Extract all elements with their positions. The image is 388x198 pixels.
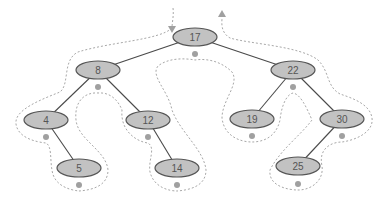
node-label: 12: [142, 115, 154, 126]
end-arrow-up-icon: [218, 10, 226, 17]
visit-dot-8: [95, 84, 101, 90]
tree-nodes: 17 8 22 4 12 19 30 5: [24, 28, 364, 177]
visit-dot-25: [295, 181, 301, 187]
tree-node-22: 22: [271, 61, 315, 79]
tree-node-19: 19: [230, 110, 274, 128]
visit-dot-19: [249, 133, 255, 139]
node-label: 4: [43, 115, 49, 126]
visit-dot-4: [43, 134, 49, 140]
tree-node-25: 25: [276, 157, 320, 175]
node-label: 8: [95, 65, 101, 76]
node-label: 25: [292, 161, 304, 172]
node-label: 30: [336, 114, 348, 125]
node-label: 17: [189, 32, 201, 43]
tree-node-8: 8: [76, 61, 120, 79]
node-label: 19: [246, 114, 258, 125]
node-label: 5: [76, 163, 82, 174]
node-label: 14: [171, 163, 183, 174]
tree-node-30: 30: [320, 110, 364, 128]
tree-node-12: 12: [126, 111, 170, 129]
inorder-traversal-diagram: 17 8 22 4 12 19 30 5: [0, 0, 388, 198]
tree-node-5: 5: [57, 159, 101, 177]
visit-dot-5: [76, 182, 82, 188]
tree-node-17: 17: [173, 28, 217, 46]
visit-dot-12: [145, 134, 151, 140]
visit-dot-30: [339, 133, 345, 139]
node-label: 22: [287, 65, 299, 76]
visit-dot-17: [192, 51, 198, 57]
visit-dot-22: [290, 84, 296, 90]
visit-dot-14: [174, 182, 180, 188]
tree-node-14: 14: [155, 159, 199, 177]
start-arrow-down-icon: [168, 26, 176, 33]
tree-node-4: 4: [24, 111, 68, 129]
